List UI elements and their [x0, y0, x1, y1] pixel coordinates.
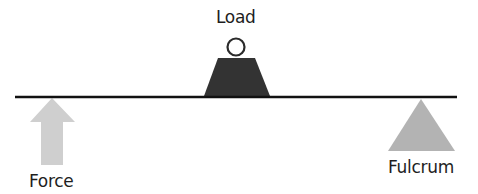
fulcrum-triangle-icon	[388, 99, 455, 151]
force-arrow-shape	[30, 98, 75, 165]
lever-diagram: Load Force Fulcrum	[0, 0, 478, 194]
load-label: Load	[216, 9, 256, 26]
load-body	[204, 58, 270, 96]
force-label: Force	[29, 173, 74, 190]
load-ring	[228, 39, 245, 56]
fulcrum-label: Fulcrum	[388, 159, 454, 176]
fulcrum-shape	[388, 99, 455, 151]
force-arrow-icon	[30, 98, 75, 165]
load-weight-icon	[204, 39, 270, 97]
